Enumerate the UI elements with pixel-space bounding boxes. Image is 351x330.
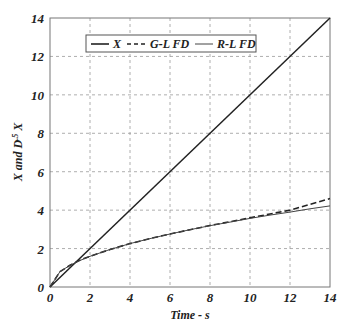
x-tick-label: 12 xyxy=(284,290,298,305)
x-tick-label: 14 xyxy=(324,290,338,305)
legend: X G-L FD R-L FD xyxy=(86,35,256,52)
series-g-l-fd xyxy=(50,199,330,287)
x-tick-label: 2 xyxy=(86,290,94,305)
y-tick-label: 8 xyxy=(38,126,45,141)
y-tick-label: 0 xyxy=(38,280,45,295)
y-tick-label: 6 xyxy=(38,165,45,180)
x-axis-label: Time - s xyxy=(170,308,210,322)
y-tick-label: 4 xyxy=(37,203,45,218)
legend-label-rl: R-L FD xyxy=(216,37,256,51)
x-tick-label: 0 xyxy=(47,290,54,305)
series-lines xyxy=(50,18,330,287)
y-tick-label: 10 xyxy=(31,88,45,103)
x-tick-label: 4 xyxy=(126,290,134,305)
x-tick-label: 10 xyxy=(244,290,258,305)
y-axis-label: X and D.5 X xyxy=(11,122,25,182)
y-tick-label: 12 xyxy=(31,49,45,64)
y-axis-ticks: 02468101214 xyxy=(31,11,45,295)
x-tick-label: 6 xyxy=(167,290,174,305)
legend-label-x: X xyxy=(112,37,122,51)
x-axis-ticks: 02468101214 xyxy=(47,290,337,305)
legend-label-gl: G-L FD xyxy=(150,37,190,51)
y-tick-label: 14 xyxy=(31,11,45,26)
y-tick-label: 2 xyxy=(37,242,45,257)
line-chart: 02468101214 02468101214 Time - s X and D… xyxy=(0,0,351,330)
series-x xyxy=(50,18,330,287)
x-tick-label: 8 xyxy=(207,290,214,305)
